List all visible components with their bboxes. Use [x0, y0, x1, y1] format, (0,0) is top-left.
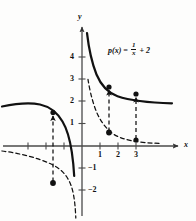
point-base-left — [50, 180, 56, 186]
graph-figure: y x 4 3 2 1 −1 −2 1 2 3 p(x) = 1 x + 2 — [0, 0, 196, 221]
x-tick-label-2: 2 — [116, 151, 120, 159]
x-axis-label: x — [184, 141, 188, 149]
y-tick-label-3: 3 — [70, 75, 74, 83]
solid-curve-left-branch — [2, 103, 74, 176]
formula-denominator: x — [131, 50, 137, 57]
formula-function-name: p(x) — [108, 46, 121, 55]
dashed-curve-right-branch — [88, 79, 160, 143]
x-tick-label-1: 1 — [98, 151, 102, 159]
function-formula-annotation: p(x) = 1 x + 2 — [108, 42, 150, 58]
plot-canvas — [0, 0, 196, 221]
x-tick-label-3: 3 — [134, 151, 138, 159]
point-p-mid — [106, 84, 111, 89]
y-tick-label-1: 1 — [70, 119, 74, 127]
point-p-left — [50, 110, 55, 115]
y-tick-label-4: 4 — [70, 53, 74, 61]
formula-fraction: 1 x — [131, 42, 137, 58]
point-p-right — [133, 91, 138, 96]
dashed-curve-left-branch — [2, 151, 76, 218]
point-base-mid — [106, 130, 112, 136]
point-base-right — [133, 137, 138, 142]
y-tick-label-neg1: −1 — [88, 164, 97, 172]
y-axis-label: y — [78, 13, 82, 21]
formula-plus-term: + 2 — [139, 46, 150, 55]
y-tick-label-neg2: −2 — [88, 186, 97, 194]
formula-equals: = — [123, 46, 128, 55]
y-tick-label-2: 2 — [70, 97, 74, 105]
